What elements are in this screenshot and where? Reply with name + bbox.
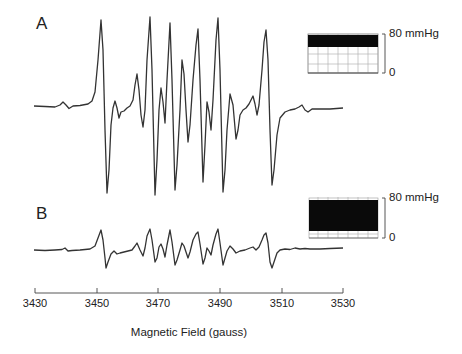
x-axis-title: Magnetic Field (gauss) <box>131 326 247 338</box>
scale-bracket-b <box>382 198 385 238</box>
inset-a-top-label: 80 mmHg <box>389 27 439 39</box>
spectrum-b-trace <box>34 229 343 268</box>
x-axis <box>35 288 343 293</box>
scale-bracket-a <box>382 34 385 73</box>
pressure-band-b <box>309 200 378 231</box>
pressure-inset-a <box>308 34 385 73</box>
x-tick-label: 3470 <box>146 297 170 309</box>
pressure-band-a <box>308 35 378 47</box>
inset-b-bottom-label: 0 <box>389 231 395 243</box>
pressure-inset-b <box>309 197 385 238</box>
x-tick-label: 3430 <box>23 297 47 309</box>
x-tick-label: 3450 <box>85 297 109 309</box>
x-tick-label: 3510 <box>270 297 294 309</box>
inset-a-bottom-label: 0 <box>389 66 395 78</box>
inset-b-top-label: 80 mmHg <box>389 191 439 203</box>
x-tick-label: 3530 <box>331 297 355 309</box>
x-tick-label: 3490 <box>208 297 232 309</box>
spectrum-a-trace <box>34 17 343 195</box>
